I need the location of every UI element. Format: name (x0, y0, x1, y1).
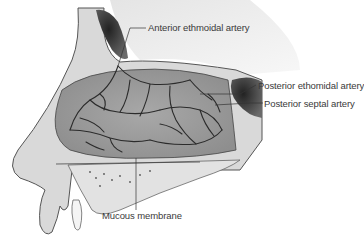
label-posterior-septal-artery: Posterior septal artery (264, 98, 355, 109)
hard-palate (68, 160, 240, 214)
label-mucous-membrane: Mucous membrane (102, 210, 182, 221)
incisor-tooth (72, 200, 82, 230)
label-anterior-ethmoidal-artery: Anterior ethmoidal artery (148, 22, 250, 33)
label-posterior-ethmoidal-artery: Posterior ethomidal artery (258, 80, 364, 91)
